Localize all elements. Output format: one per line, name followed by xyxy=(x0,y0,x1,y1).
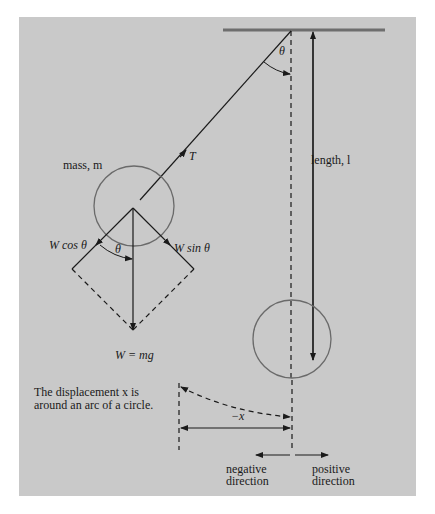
tension-label: T xyxy=(189,149,197,163)
theta-label-bottom: θ xyxy=(115,242,121,256)
mass-displaced xyxy=(94,166,174,246)
length-label: length, l xyxy=(311,153,351,167)
mass-rest xyxy=(253,300,331,378)
dashed-completion-right xyxy=(133,269,194,330)
weight-label: W = mg xyxy=(115,348,154,362)
negative-direction-label-2: direction xyxy=(226,474,269,488)
theta-arc-top xyxy=(264,62,290,74)
pendulum-string xyxy=(140,31,291,200)
w-sin-label: W sin θ xyxy=(174,241,210,255)
dashed-completion-left xyxy=(72,269,133,330)
positive-direction-label-2: direction xyxy=(312,474,355,488)
mass-label: mass, m xyxy=(63,158,103,172)
theta-label-top: θ xyxy=(279,44,285,58)
displacement-note-line1: The displacement x is xyxy=(34,385,139,399)
displacement-note-line2: around an arc of a circle. xyxy=(34,398,153,412)
neg-x-label: −x xyxy=(231,409,245,423)
w-sin-arrowhead xyxy=(166,241,170,245)
w-cos-arrowhead xyxy=(96,241,100,245)
pendulum-diagram: θ T mass, m length, l W cos θ W sin θ θ … xyxy=(0,0,435,514)
w-sin-vector xyxy=(133,208,194,269)
w-cos-label: W cos θ xyxy=(49,238,87,252)
